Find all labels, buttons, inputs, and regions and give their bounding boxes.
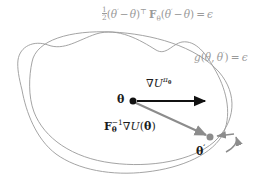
g-function-symbol: g xyxy=(194,51,201,63)
close-paren-2: ) xyxy=(190,8,194,20)
theta-subscript-2: θ xyxy=(112,126,123,133)
vanilla-gradient-label: ∇Uπθ xyxy=(146,78,171,89)
pi-theta-subscript: θ xyxy=(168,80,171,86)
kl-constraint-equation: g(θ, θ′) = ϵ xyxy=(194,52,248,63)
comma-1: , xyxy=(211,51,214,63)
theta-point-text: θ xyxy=(117,93,124,106)
theta-point-label: θ xyxy=(117,94,124,105)
fisher-matrix-symbol-2: F xyxy=(104,120,112,133)
fisher-quadratic-equation: 12(θ′ − θ)⊤ Fθ(θ′ − θ) = ϵ xyxy=(102,6,213,22)
equals-sign-1: = xyxy=(196,8,205,20)
minus-sign-1: − xyxy=(120,8,129,20)
equals-sign-2: = xyxy=(231,51,240,63)
utility-symbol-1: U xyxy=(154,77,163,90)
policy-superscript: πθ xyxy=(163,75,171,84)
minus-sign-2: − xyxy=(174,8,183,20)
figure-canvas xyxy=(0,0,280,186)
nabla-icon: ∇ xyxy=(146,77,154,90)
theta-prime-point-dot xyxy=(207,134,214,141)
curved-correction-arrow xyxy=(226,137,237,152)
transpose-symbol: ⊤ xyxy=(140,7,147,16)
prime-mark-4: ′ xyxy=(203,143,205,152)
theta-point-dot xyxy=(130,98,137,105)
theta-prime-point-label: θ′ xyxy=(196,146,205,157)
utility-symbol-2: U xyxy=(131,120,140,133)
natural-gradient-label: F−1θ∇U(θ) xyxy=(104,119,156,133)
close-paren-4: ) xyxy=(151,120,155,133)
fisher-inverse-indices: −1θ xyxy=(112,119,123,133)
correction-arrow xyxy=(217,134,234,136)
nabla-icon-2: ∇ xyxy=(123,120,131,133)
prime-mark-2: ′ xyxy=(171,7,173,16)
prime-mark-1: ′ xyxy=(117,7,119,16)
epsilon-symbol-2: ϵ xyxy=(242,51,248,63)
close-paren-3: ) xyxy=(225,51,229,63)
epsilon-symbol-1: ϵ xyxy=(207,8,213,20)
